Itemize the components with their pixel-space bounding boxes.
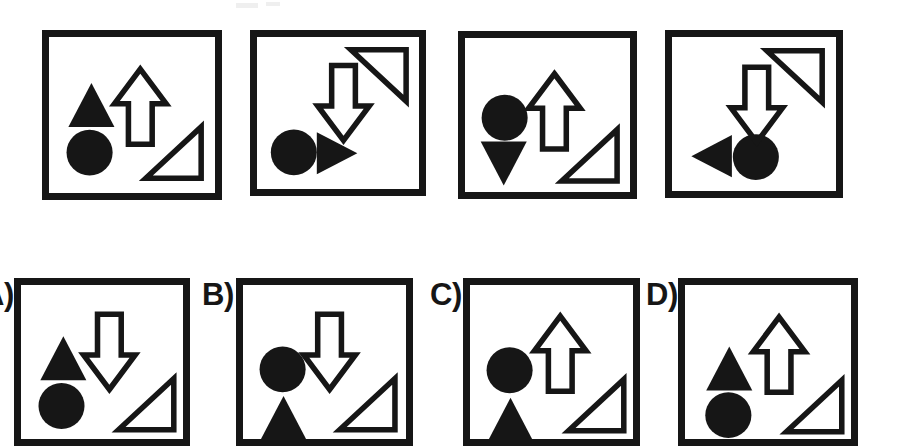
option-label-a: A): [0, 279, 14, 310]
sequence-panel-3: [458, 31, 637, 199]
sequence-panel-2: [250, 30, 426, 196]
option-shape-group: [243, 285, 406, 439]
sequence-shape-group: [49, 37, 215, 193]
sequence-shape-group: [672, 37, 836, 191]
scan-speck: [236, 3, 258, 8]
sequence-panel-4: [665, 30, 843, 198]
sequence-shape-group: [465, 38, 630, 192]
option-panel-a[interactable]: [14, 278, 190, 446]
option-label-c: C): [430, 279, 462, 310]
option-shape-group: [685, 285, 851, 439]
option-shape-group: [21, 285, 183, 439]
scan-speck: [266, 2, 280, 6]
sequence-panel-1: [42, 30, 222, 200]
option-shape-group: [470, 285, 633, 439]
option-panel-c[interactable]: [463, 278, 640, 446]
option-label-d: D): [646, 279, 678, 310]
sequence-shape-group: [257, 37, 419, 189]
option-panel-d[interactable]: [678, 278, 858, 446]
option-label-b: B): [202, 279, 234, 310]
option-panel-b[interactable]: [236, 278, 413, 446]
